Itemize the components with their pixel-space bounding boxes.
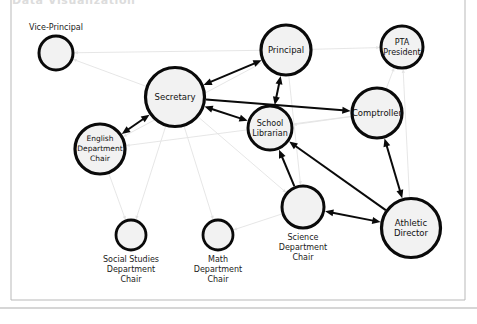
edge-principal-to-school_librarian xyxy=(276,83,279,97)
edge-science_chair-to-athletic_director xyxy=(333,213,373,221)
node-label-comptroller: Comptroller xyxy=(352,108,403,118)
arrowhead-english_chair-to-secretary xyxy=(141,115,150,123)
node-label-social_studies_chair: Social StudiesDepartmentChair xyxy=(103,255,159,284)
node-circle-social_studies_chair[interactable] xyxy=(116,220,146,250)
edge-science_chair-to-math_chair xyxy=(237,214,283,229)
arrowhead-secretary-to-math_chair xyxy=(211,216,214,220)
arrowhead-english_chair-to-social_studies_chair xyxy=(123,216,126,220)
arrowhead-athletic_director-to-pta_president xyxy=(402,69,405,73)
arrowhead-principal-to-school_librarian xyxy=(273,96,280,105)
node-layer: SecretaryPrincipalPTAPresidentComptrolle… xyxy=(39,25,441,258)
edge-comptroller-to-athletic_director xyxy=(387,146,400,191)
node-label-science_chair: ScienceDepartmentChair xyxy=(279,233,327,262)
node-social_studies_chair[interactable] xyxy=(116,220,146,250)
node-label-school_librarian: SchoolLibrarian xyxy=(252,118,287,137)
edge-secretary-to-social_studies_chair xyxy=(137,126,166,216)
node-label-secretary: Secretary xyxy=(155,92,196,102)
edge-principal-to-secretary xyxy=(211,63,255,82)
arrowhead-secretary-to-vice_principal xyxy=(73,59,77,62)
node-circle-vice_principal[interactable] xyxy=(39,36,73,70)
edge-principal-to-vice_principal xyxy=(78,50,260,52)
arrowhead-principal-to-pta_president xyxy=(376,46,380,49)
arrowhead-science_chair-to-athletic_director xyxy=(372,217,381,224)
diagram-canvas: Data Visualization SecretaryPrincipalPTA… xyxy=(0,0,477,324)
arrowhead-athletic_director-to-science_chair xyxy=(325,209,334,216)
node-label-vice_principal: Vice-Principal xyxy=(29,23,83,32)
arrowhead-secretary-to-english_chair xyxy=(122,126,131,134)
edge-principal-to-pta_president xyxy=(312,48,376,50)
edge-comptroller-to-pta_president xyxy=(386,71,393,89)
arrowhead-principal-to-science_chair xyxy=(299,181,302,185)
edge-english_chair-to-social_studies_chair xyxy=(109,173,125,216)
network-graph: SecretaryPrincipalPTAPresidentComptrolle… xyxy=(0,0,477,324)
arrowhead-school_librarian-to-secretary xyxy=(204,106,213,113)
arrowhead-secretary-to-comptroller xyxy=(342,107,351,114)
arrowhead-comptroller-to-pta_president xyxy=(391,68,394,72)
edge-science_chair-to-school_librarian xyxy=(282,157,294,186)
arrowhead-secretary-to-school_librarian xyxy=(239,115,248,122)
arrowhead-principal-to-vice_principal xyxy=(74,51,78,54)
arrowhead-school_librarian-to-principal xyxy=(276,76,283,85)
node-circle-science_chair[interactable] xyxy=(282,186,324,228)
node-label-principal: Principal xyxy=(268,45,304,55)
edge-secretary-to-school_librarian xyxy=(212,109,241,118)
node-circle-math_chair[interactable] xyxy=(203,220,233,250)
edge-secretary-to-english_chair xyxy=(128,119,143,130)
node-label-athletic_director: AthleticDirector xyxy=(394,217,429,238)
arrowhead-secretary-to-social_studies_chair xyxy=(135,216,138,220)
edge-athletic_director-to-pta_president xyxy=(403,73,409,198)
node-math_chair[interactable] xyxy=(203,220,233,250)
node-vice_principal[interactable] xyxy=(39,36,73,70)
arrowhead-athletic_director-to-comptroller xyxy=(384,138,391,147)
node-label-math_chair: MathDepartmentChair xyxy=(194,255,242,284)
node-science_chair[interactable] xyxy=(282,186,324,228)
edge-secretary-to-vice_principal xyxy=(76,60,146,86)
arrowhead-comptroller-to-athletic_director xyxy=(396,189,403,198)
arrowhead-science_chair-to-math_chair xyxy=(233,227,237,230)
edge-secretary-to-math_chair xyxy=(184,126,212,216)
